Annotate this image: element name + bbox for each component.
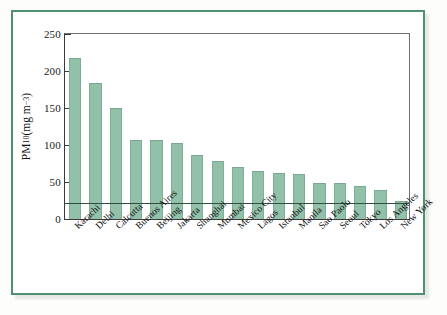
- y-tick-label: 200: [44, 65, 65, 77]
- y-tick-label: 100: [44, 139, 65, 151]
- y-tick-label: 250: [44, 28, 65, 40]
- bar: [89, 83, 101, 219]
- y-axis-unit-exponent: −3: [22, 97, 31, 106]
- y-tick-mark: [65, 219, 71, 220]
- y-axis-title: PM10 (mg m−3): [18, 33, 34, 220]
- y-tick-label: 50: [50, 176, 65, 188]
- y-axis-title-subscript: 10: [22, 136, 31, 144]
- y-axis-unit-close: ): [20, 93, 32, 97]
- bar: [69, 58, 81, 219]
- bars-layer: [65, 34, 409, 219]
- y-axis-unit-open: (mg m: [20, 105, 32, 135]
- y-tick-label: 150: [44, 102, 65, 114]
- y-axis-title-main: PM: [20, 144, 32, 161]
- plot-area: 050100150200250: [64, 33, 410, 220]
- x-axis-labels: KarachiDelhiCalcuttaBuenos AiresBeijingJ…: [64, 221, 410, 299]
- figure-root: PM10 (mg m−3) 050100150200250 KarachiDel…: [0, 0, 447, 315]
